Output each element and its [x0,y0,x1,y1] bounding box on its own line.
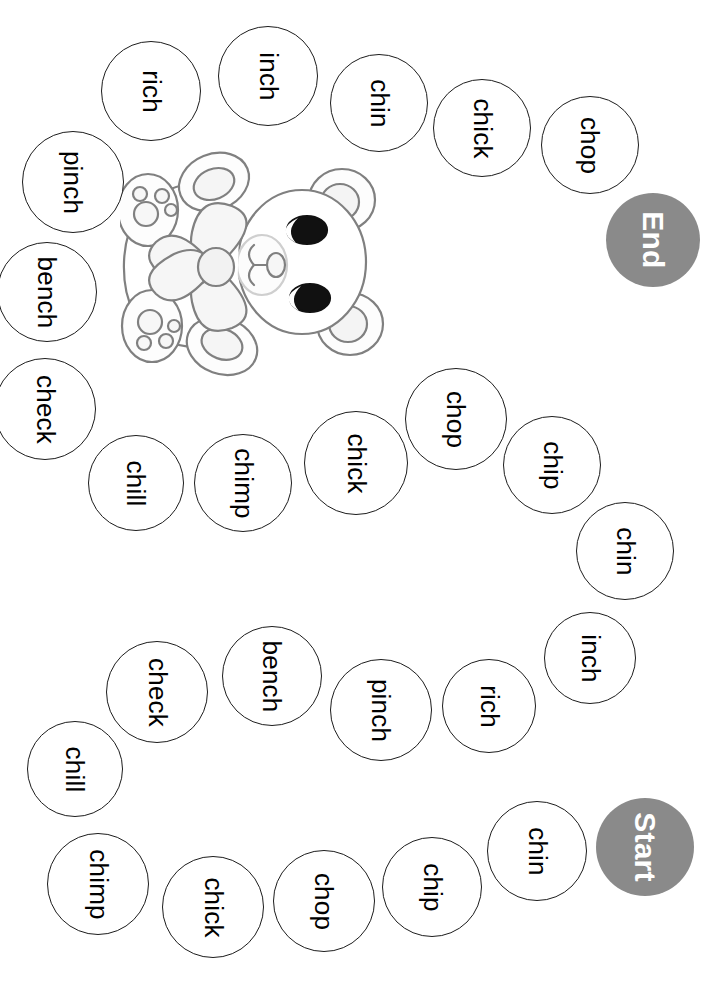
board-space-label: chip [537,441,568,490]
teddy-bear-illustration [120,138,410,428]
board-space-word[interactable]: chimp [194,434,292,532]
board-space-word[interactable]: rich [101,41,201,141]
board-space-label: rich [473,685,504,728]
board-space-word[interactable]: pinch [22,131,124,233]
board-space-label: chick [198,877,229,937]
board-space-word[interactable]: check [106,641,208,743]
board-space-label: inch [253,52,284,101]
board-space-label: End [636,211,670,268]
board-space-label: chill [59,746,90,792]
board-space-word[interactable]: pinch [330,659,432,761]
board-space-word[interactable]: chick [162,856,264,958]
board-space-word[interactable]: chop [541,96,639,194]
board-space-label: chick [467,98,498,158]
board-space-word[interactable]: chop [273,850,375,952]
board-space-label: chimp [82,849,113,919]
board-space-label: chop [575,116,606,173]
board-space-word[interactable]: chin [330,54,428,152]
board-space-label: chimp [227,448,258,518]
board-space-word[interactable]: inch [544,612,636,704]
board-space-word[interactable]: rich [442,659,536,753]
board-space-label: Start [628,812,662,881]
board-space-label: pinch [366,678,397,741]
board-space-word[interactable]: chill [88,435,184,531]
board-space-label: chop [309,872,340,929]
board-space-word[interactable]: chick [433,79,531,177]
board-space-label: chill [120,460,151,506]
board-space-label: chin [364,79,395,128]
board-space-label: check [29,375,60,444]
board-space-label: pinch [58,150,89,213]
board-space-word[interactable]: chop [405,368,507,470]
board-space-label: chop [441,390,472,447]
board-space-label: chip [417,863,448,912]
board-space-word[interactable]: chip [503,416,601,514]
board-space-word[interactable]: check [0,358,96,460]
board-space-word[interactable]: bench [0,242,97,342]
board-space-label: chick [341,433,372,493]
board-space-word[interactable]: bench [222,626,322,726]
board-space-word[interactable]: chimp [47,833,149,935]
board-space-label: rich [135,70,166,113]
board-space-start[interactable]: Start [596,798,694,896]
board-space-word[interactable]: chick [304,411,408,515]
board-space-word[interactable]: chill [27,721,123,817]
board-space-label: check [141,658,172,727]
board-space-word[interactable]: chip [382,837,482,937]
board-space-label: bench [32,256,63,328]
board-space-word[interactable]: chin [576,502,674,600]
board-space-label: inch [575,634,606,683]
board-space-label: chin [610,527,641,576]
board-space-label: chin [522,827,553,876]
board-space-word[interactable]: inch [218,26,318,126]
board-space-end[interactable]: End [606,193,700,287]
game-board: Startchinchipchopchickchimpchillcheckben… [0,0,728,982]
board-space-word[interactable]: chin [487,801,587,901]
board-space-label: bench [257,640,288,712]
